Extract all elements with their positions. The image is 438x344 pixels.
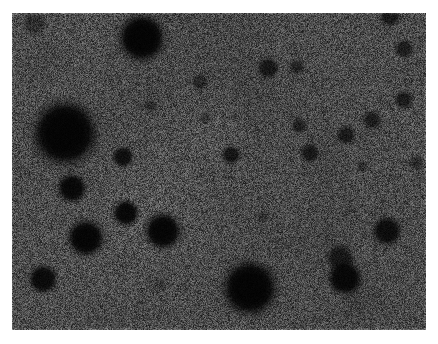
- particle: [63, 215, 109, 261]
- particle: [110, 197, 142, 229]
- micrograph-page: [0, 0, 438, 344]
- particle: [25, 261, 61, 297]
- particle: [255, 55, 281, 81]
- particle: [216, 254, 284, 322]
- particle: [25, 93, 105, 173]
- particle: [140, 208, 186, 254]
- particle: [354, 159, 370, 175]
- particle: [392, 88, 416, 112]
- particle: [334, 123, 358, 147]
- particle: [198, 110, 214, 126]
- particle: [323, 241, 357, 275]
- particle: [360, 108, 384, 132]
- particle: [143, 98, 159, 114]
- particle: [289, 116, 309, 136]
- particle: [298, 141, 322, 165]
- micrograph-canvas: [12, 13, 426, 330]
- micrograph-plate: [12, 13, 426, 330]
- particle: [287, 57, 307, 77]
- particle: [219, 143, 243, 167]
- particle: [110, 144, 136, 170]
- particle: [151, 274, 169, 292]
- particle: [254, 208, 270, 224]
- particle: [369, 213, 405, 249]
- particle: [54, 170, 90, 206]
- particle: [392, 37, 416, 61]
- particle: [190, 72, 210, 92]
